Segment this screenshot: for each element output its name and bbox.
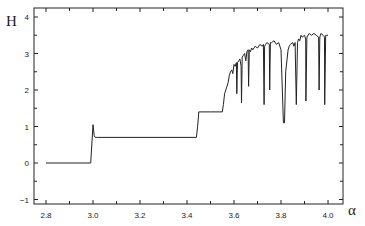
- axis-tick-labels: 2.83.03.23.43.63.84.0−101234: [20, 13, 334, 220]
- x-tick-label: 3.4: [181, 211, 193, 220]
- x-tick-label: 3.0: [87, 211, 99, 220]
- x-axis-title: α: [348, 202, 356, 218]
- plot-frame: [34, 8, 343, 204]
- x-tick-label: 3.2: [134, 211, 146, 220]
- x-tick-label: 3.6: [228, 211, 240, 220]
- y-tick-label: 2: [25, 86, 30, 95]
- y-tick-label: −1: [20, 196, 30, 205]
- x-tick-label: 4.0: [322, 211, 334, 220]
- axis-ticks: [34, 8, 343, 204]
- x-tick-label: 2.8: [40, 211, 52, 220]
- y-tick-label: 0: [25, 159, 30, 168]
- y-tick-label: 4: [25, 13, 30, 22]
- chart: 2.83.03.23.43.63.84.0−101234 H α: [0, 0, 365, 226]
- data-line: [46, 33, 328, 163]
- y-tick-label: 3: [25, 50, 30, 59]
- y-tick-label: 1: [25, 123, 30, 132]
- y-axis-title: H: [6, 13, 17, 29]
- x-tick-label: 3.8: [275, 211, 287, 220]
